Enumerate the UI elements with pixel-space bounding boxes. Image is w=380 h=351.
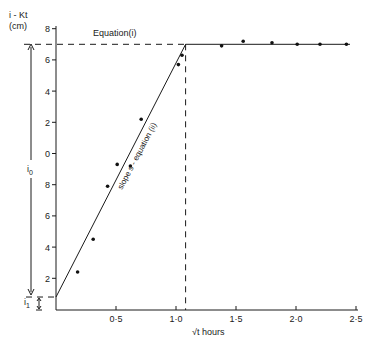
x-tick-label: 2·0 bbox=[289, 314, 302, 324]
data-point bbox=[180, 53, 184, 57]
y-axis-label-line1: i - Kt bbox=[9, 10, 28, 20]
y-tick-label: 2 bbox=[45, 118, 50, 128]
data-point bbox=[139, 117, 143, 121]
i1-label: i1 bbox=[24, 297, 30, 309]
y-axis-label-line2: (cm) bbox=[9, 21, 27, 31]
data-point bbox=[345, 43, 349, 47]
data-point bbox=[177, 63, 181, 67]
data-point bbox=[106, 184, 110, 188]
data-point bbox=[76, 270, 80, 274]
axes bbox=[56, 26, 358, 310]
data-point bbox=[318, 43, 322, 47]
y-tick-label: 8 bbox=[45, 180, 50, 190]
i0-subscript: 0 bbox=[29, 169, 33, 176]
y-tick-label: 4 bbox=[45, 87, 50, 97]
x-tick-label: 0·5 bbox=[109, 314, 122, 324]
x-axis-label: √t hours bbox=[192, 327, 225, 337]
x-ticks: 0·51·01·52·02·5 bbox=[109, 306, 362, 324]
x-tick-label: 2·5 bbox=[349, 314, 362, 324]
data-point bbox=[220, 44, 224, 48]
data-point bbox=[91, 238, 95, 242]
y-tick-label: 2 bbox=[45, 274, 50, 284]
equation-i-label: Equation(i) bbox=[93, 28, 137, 38]
y-tick-label: 6 bbox=[45, 55, 50, 65]
guide-lines bbox=[24, 44, 186, 310]
y-tick-label: 6 bbox=[45, 211, 50, 221]
y-tick-label: 8 bbox=[45, 24, 50, 34]
y-ticks: 246802468 bbox=[45, 24, 56, 284]
chart: 246802468 0·51·01·52·02·5 i - Kt (cm) √t… bbox=[0, 0, 380, 351]
i1-subscript: 1 bbox=[26, 302, 30, 309]
fit-lines bbox=[56, 44, 350, 297]
equation-ii-label: slope s - equation (ii) bbox=[116, 121, 159, 191]
dimension-arrows bbox=[28, 44, 42, 310]
data-point bbox=[241, 39, 245, 43]
x-tick-label: 1·0 bbox=[169, 314, 182, 324]
y-tick-label: 4 bbox=[45, 243, 50, 253]
data-point bbox=[295, 43, 299, 47]
data-point bbox=[115, 163, 119, 167]
data-point bbox=[270, 41, 274, 45]
data-points bbox=[76, 39, 348, 273]
x-tick-label: 1·5 bbox=[229, 314, 242, 324]
y-tick-label: 0 bbox=[45, 149, 50, 159]
i0-label: i0 bbox=[27, 164, 33, 176]
series-line bbox=[56, 44, 186, 297]
